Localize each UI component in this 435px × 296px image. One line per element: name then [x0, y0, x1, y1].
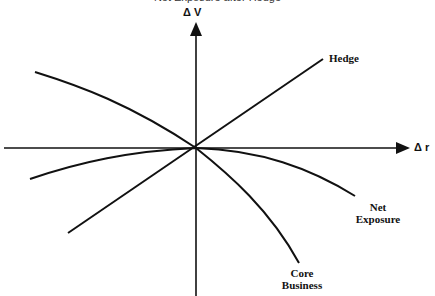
- net-exposure-label-line1: Net: [348, 201, 408, 213]
- diagram-title-cut-off: Net Exposure after Hedge: [0, 0, 435, 3]
- hedge-label: Hedge: [329, 52, 359, 64]
- net-exposure-label: Net Exposure: [348, 201, 408, 225]
- exposure-diagram: Net Exposure after Hedge Δ V Δ r Hedge N…: [0, 0, 435, 296]
- x-axis-label: Δ r: [414, 141, 429, 153]
- net-exposure-label-line2: Exposure: [348, 213, 408, 225]
- diagram-canvas: [0, 0, 435, 296]
- x-axis-arrow-icon: [396, 142, 410, 154]
- core-business-label-line1: Core: [274, 267, 330, 279]
- y-axis-label: Δ V: [183, 6, 201, 18]
- y-axis-arrow-icon: [190, 22, 202, 36]
- net-exposure-curve: [30, 148, 355, 196]
- core-business-curve: [35, 72, 299, 263]
- core-business-label-line2: Business: [274, 279, 330, 291]
- core-business-label: Core Business: [274, 267, 330, 291]
